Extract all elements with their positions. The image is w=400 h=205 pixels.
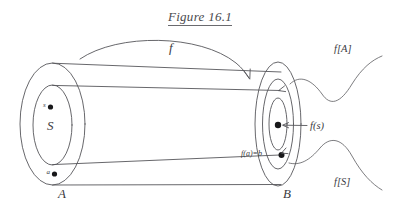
tube-line-outer-top bbox=[53, 63, 282, 72]
image-of-S-callout: f[S] bbox=[289, 140, 382, 190]
point-a-label: a bbox=[47, 168, 51, 176]
image-of-A-callout-curve bbox=[290, 56, 382, 101]
point-s-label: s bbox=[43, 101, 46, 109]
set-S-label: S bbox=[47, 118, 54, 133]
set-mapping-diagram: s S a A f(a)=b B bbox=[0, 0, 400, 205]
f-of-s-callout: f(s) bbox=[283, 120, 325, 132]
mapping-arrow-group: f bbox=[80, 40, 250, 79]
figure-container: Figure 16.1 s S a A bbox=[0, 0, 400, 205]
set-B-label: B bbox=[283, 186, 291, 201]
set-A-label: A bbox=[57, 186, 66, 201]
tube-line-inner-top bbox=[53, 85, 281, 90]
point-f-of-s-label: f(s) bbox=[310, 120, 325, 132]
tube-line-outer-bottom bbox=[53, 185, 282, 186]
mapping-label: f bbox=[169, 40, 175, 55]
point-s-dot bbox=[48, 104, 53, 109]
point-f-of-s-dot bbox=[275, 122, 281, 128]
arrowhead-into-f-of-a bbox=[281, 148, 288, 154]
tube-connector-lines bbox=[53, 63, 282, 185]
domain-set-group: s S a A bbox=[20, 63, 85, 201]
arrowhead-into-image-of-A bbox=[279, 86, 286, 92]
image-of-A-label: f[A] bbox=[334, 43, 352, 54]
codomain-set-group: f(a)=b B bbox=[241, 62, 301, 201]
point-a-dot bbox=[52, 171, 57, 176]
image-of-S-label: f[S] bbox=[334, 176, 350, 187]
image-of-A-callout: f[A] bbox=[290, 43, 382, 101]
point-f-of-a-label: f(a)=b bbox=[241, 149, 262, 158]
mapping-arrow-curve bbox=[80, 40, 249, 78]
